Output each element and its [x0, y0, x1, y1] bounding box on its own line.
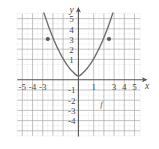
y-tick-label-neg3: -3 — [68, 106, 76, 116]
x-tick-label-1: 1 — [91, 82, 96, 92]
x-tick-label-neg4: -4 — [29, 82, 37, 92]
y-tick-label-neg1: -1 — [68, 85, 76, 95]
y-tick-label-neg4: -4 — [68, 116, 76, 126]
x-axis-label: x — [144, 81, 150, 91]
coordinate-plane-svg: 5 4 3 2 1 -1 -2 -3 -4 -5 -4 -3 1 3 4 5 y… — [0, 0, 159, 149]
y-axis-label: y — [68, 5, 74, 15]
figure-background — [0, 0, 159, 149]
plotted-point-right — [107, 37, 111, 41]
x-tick-label-3: 3 — [112, 82, 117, 92]
y-tick-label-5: 5 — [69, 14, 74, 24]
y-tick-label-3: 3 — [69, 35, 74, 45]
y-tick-label-neg2: -2 — [68, 96, 76, 106]
y-tick-label-4: 4 — [69, 25, 74, 35]
x-tick-label-4: 4 — [122, 82, 127, 92]
plotted-point-left — [46, 37, 50, 41]
x-tick-label-neg3: -3 — [39, 82, 47, 92]
x-tick-label-5: 5 — [132, 82, 137, 92]
y-tick-label-1: 1 — [69, 55, 74, 65]
x-tick-label-neg5: -5 — [19, 82, 27, 92]
graph-figure: 5 4 3 2 1 -1 -2 -3 -4 -5 -4 -3 1 3 4 5 y… — [0, 0, 159, 149]
y-tick-label-2: 2 — [69, 45, 74, 55]
